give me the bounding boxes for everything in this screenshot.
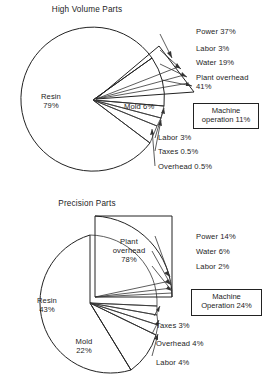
machine-operation-box: Machine Operation 24% — [191, 289, 262, 316]
sub-slice-power — [95, 288, 172, 297]
leader-power — [155, 236, 170, 277]
machine-operation-box: Machine operation 11% — [193, 103, 259, 129]
slice-label-resin: Resin 79% — [28, 92, 74, 110]
callout-labor-lower: Labor 4% — [156, 358, 189, 367]
callout-overhead: Overhead 0.5% — [158, 162, 212, 171]
callout-labor-lower: Labor 3% — [158, 133, 191, 142]
callout-power: Power 37% — [196, 27, 236, 36]
leader-overhead-arrow — [150, 129, 154, 135]
sub-slice-water — [96, 83, 189, 99]
callout-overhead: Overhead 4% — [156, 339, 204, 348]
slice-label-mold: Mold 6% — [124, 102, 154, 111]
callout-plant-overhead: Plant overhead 41% — [196, 73, 248, 91]
callout-water: Water 19% — [196, 58, 234, 67]
chart-high-volume-parts: High Volume Parts Resin 79% Mold — [0, 0, 274, 194]
sub-slice-plant-overhead — [95, 281, 170, 297]
callout-labor-upper: Labor 3% — [196, 44, 229, 53]
slice-label-mold: Mold 22% — [63, 337, 105, 355]
slice-label-resin: Resin 43% — [24, 296, 70, 314]
sub-slice-water — [95, 293, 172, 297]
callout-taxes: Taxes 0.5% — [158, 147, 198, 156]
callout-power: Power 14% — [196, 232, 236, 241]
slice-label-plant-overhead: Plant overhead 78% — [103, 237, 155, 265]
callout-taxes: Taxes 3% — [156, 321, 190, 330]
callout-water: Water 6% — [196, 247, 230, 256]
callout-labor-upper: Labor 2% — [196, 262, 229, 271]
chart-precision-parts: Precision Parts Resin 43% Mold — [0, 194, 274, 388]
slice-overhead-outline — [90, 303, 158, 325]
leader-plant-overhead-arrow — [186, 82, 192, 86]
exploded-wedge-machine-operation — [96, 46, 194, 99]
